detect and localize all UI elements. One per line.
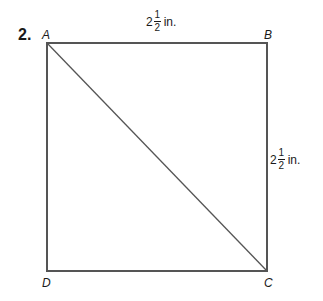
right-unit: in.: [288, 153, 301, 167]
diagonal-ac: [47, 43, 267, 271]
right-numerator: 1: [278, 148, 284, 158]
vertex-d-label: D: [42, 276, 51, 290]
vertex-a-label: A: [42, 28, 50, 42]
top-side-measurement: 2 1 2 in.: [146, 10, 176, 33]
top-numerator: 1: [154, 10, 160, 20]
top-unit: in.: [164, 15, 177, 29]
top-whole: 2: [146, 15, 153, 29]
right-fraction: 1 2: [278, 148, 285, 171]
vertex-c-label: C: [264, 276, 273, 290]
vertex-b-label: B: [264, 28, 272, 42]
top-fraction: 1 2: [154, 10, 161, 33]
top-denominator: 2: [154, 23, 160, 33]
right-side-measurement: 2 1 2 in.: [270, 148, 300, 171]
right-whole: 2: [270, 153, 277, 167]
problem-number: 2.: [18, 26, 31, 44]
right-denominator: 2: [278, 161, 284, 171]
